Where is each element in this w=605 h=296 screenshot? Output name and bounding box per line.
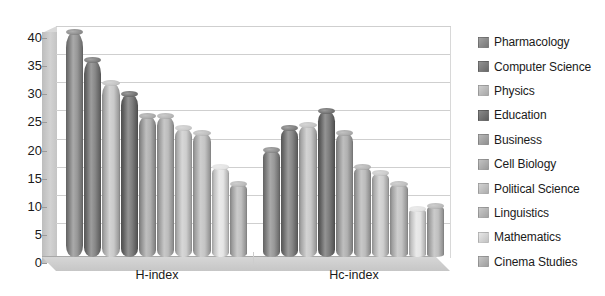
legend-label: Political Science <box>494 182 580 196</box>
bar-cap <box>281 125 298 131</box>
bar-h-index-business <box>139 116 156 257</box>
legend-label: Computer Science <box>494 60 591 74</box>
bar-h-index-computer-science <box>84 60 101 257</box>
bar-cap <box>230 181 247 187</box>
bar-cap <box>139 113 156 119</box>
bar-cap <box>263 147 280 153</box>
x-axis-group-divider <box>253 252 254 266</box>
legend-item-business[interactable]: Business <box>478 128 605 152</box>
bar-h-index-linguistics <box>193 133 210 257</box>
legend-label: Education <box>494 108 546 122</box>
bar-hc-index-business <box>336 133 353 257</box>
legend-swatch-icon <box>478 85 489 96</box>
legend-item-cinema-studies[interactable]: Cinema Studies <box>478 250 605 274</box>
legend-item-political-science[interactable]: Political Science <box>478 176 605 200</box>
bar-h-index-cinema-studies <box>230 184 247 257</box>
legend-swatch-icon <box>478 61 489 72</box>
legend-item-pharmacology[interactable]: Pharmacology <box>478 30 605 54</box>
bar-series-container <box>0 0 460 296</box>
bar-cap <box>102 80 119 86</box>
legend-label: Mathematics <box>494 230 561 244</box>
chart-legend: PharmacologyComputer SciencePhysicsEduca… <box>478 30 605 280</box>
bar-cap <box>175 125 192 131</box>
chart-screenshot: 0510152025303540 H-index Hc-index Pharma… <box>0 0 605 296</box>
legend-label: Physics <box>494 84 535 98</box>
bar-cap <box>427 203 444 209</box>
bar-cap <box>390 181 407 187</box>
bar-h-index-physics <box>102 83 119 257</box>
bar-cap <box>409 206 426 212</box>
legend-swatch-icon <box>478 37 489 48</box>
bar-hc-index-cell-biology <box>354 167 371 257</box>
bar-hc-index-computer-science <box>281 128 298 257</box>
bar-h-index-mathematics <box>212 167 229 257</box>
bar-cap <box>318 108 335 114</box>
legend-label: Cell Biology <box>494 157 556 171</box>
legend-swatch-icon <box>478 183 489 194</box>
x-axis-label-h-index: H-index <box>52 268 262 282</box>
chart-plot-region: 0510152025303540 H-index Hc-index <box>0 0 460 296</box>
legend-swatch-icon <box>478 256 489 267</box>
x-axis-label-hc-index: Hc-index <box>249 268 459 282</box>
legend-swatch-icon <box>478 110 489 121</box>
legend-item-computer-science[interactable]: Computer Science <box>478 54 605 78</box>
bar-hc-index-linguistics <box>390 184 407 257</box>
bar-cap <box>84 57 101 63</box>
bar-cap <box>372 170 389 176</box>
legend-swatch-icon <box>478 159 489 170</box>
legend-swatch-icon <box>478 232 489 243</box>
bar-cap <box>299 122 316 128</box>
legend-swatch-icon <box>478 134 489 145</box>
legend-label: Pharmacology <box>494 35 570 49</box>
bar-h-index-cell-biology <box>157 116 174 257</box>
bar-cap <box>66 29 83 35</box>
bar-hc-index-mathematics <box>409 209 426 257</box>
bar-hc-index-physics <box>299 125 316 257</box>
bar-hc-index-pharmacology <box>263 150 280 257</box>
bar-hc-index-political-science <box>372 173 389 257</box>
legend-item-education[interactable]: Education <box>478 103 605 127</box>
legend-item-linguistics[interactable]: Linguistics <box>478 201 605 225</box>
legend-label: Cinema Studies <box>494 255 577 269</box>
legend-label: Business <box>494 133 542 147</box>
bar-cap <box>157 113 174 119</box>
legend-label: Linguistics <box>494 206 549 220</box>
bar-cap <box>212 164 229 170</box>
bar-cap <box>354 164 371 170</box>
legend-swatch-icon <box>478 207 489 218</box>
bar-cap <box>121 91 138 97</box>
bar-hc-index-cinema-studies <box>427 206 444 257</box>
bar-h-index-political-science <box>175 128 192 257</box>
bar-cap <box>336 130 353 136</box>
bar-hc-index-education <box>318 111 335 257</box>
bar-h-index-pharmacology <box>66 32 83 257</box>
bar-h-index-education <box>121 94 138 257</box>
legend-item-cell-biology[interactable]: Cell Biology <box>478 152 605 176</box>
legend-item-physics[interactable]: Physics <box>478 79 605 103</box>
legend-item-mathematics[interactable]: Mathematics <box>478 225 605 249</box>
bar-cap <box>193 130 210 136</box>
